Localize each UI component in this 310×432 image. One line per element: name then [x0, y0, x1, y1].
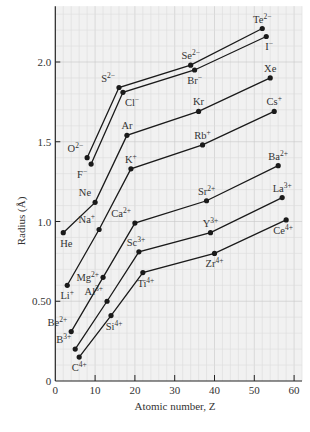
- y-axis-label: Radius (Å): [15, 196, 28, 245]
- point-label: Ar: [121, 120, 133, 131]
- data-point: [77, 354, 82, 359]
- point-label: He: [60, 238, 73, 249]
- x-tick-label: 10: [90, 384, 102, 396]
- data-point: [192, 67, 197, 72]
- x-tick-label: 20: [129, 384, 141, 396]
- y-tick-label: 0: [46, 375, 52, 387]
- point-label: Xe: [264, 63, 277, 74]
- x-axis-label: Atomic number, Z: [134, 400, 215, 412]
- x-tick-label: 60: [289, 384, 301, 396]
- data-point: [268, 75, 273, 80]
- data-point: [124, 133, 129, 138]
- data-point: [132, 220, 137, 225]
- data-point: [65, 283, 70, 288]
- y-tick-label: 1.5: [38, 136, 52, 148]
- data-point: [116, 85, 121, 90]
- data-point: [100, 275, 105, 280]
- data-point: [89, 161, 94, 166]
- y-tick-label: 0.50: [32, 295, 52, 307]
- data-point: [120, 90, 125, 95]
- x-tick-label: 0: [53, 384, 59, 396]
- data-point: [276, 163, 281, 168]
- data-point: [196, 109, 201, 114]
- data-point: [96, 227, 101, 232]
- data-point: [85, 155, 90, 160]
- data-point: [212, 251, 217, 256]
- data-point: [200, 142, 205, 147]
- data-point: [284, 217, 289, 222]
- x-tick-label: 40: [209, 384, 221, 396]
- chart-svg: 010203040506000.501.01.52.0 O2−S2−Se2−Te…: [0, 0, 310, 432]
- data-point: [264, 34, 269, 39]
- y-tick-label: 2.0: [38, 56, 52, 68]
- data-point: [73, 347, 78, 352]
- data-point: [104, 299, 109, 304]
- data-point: [108, 313, 113, 318]
- data-point: [140, 270, 145, 275]
- data-point: [260, 26, 265, 31]
- data-point: [204, 198, 209, 203]
- x-tick-label: 30: [169, 384, 181, 396]
- x-tick-label: 50: [249, 384, 261, 396]
- point-label: Kr: [193, 96, 205, 107]
- point-label: Ne: [79, 187, 92, 198]
- data-point: [208, 230, 213, 235]
- data-point: [272, 109, 277, 114]
- data-point: [136, 249, 141, 254]
- ionic-radius-chart: 010203040506000.501.01.52.0 O2−S2−Se2−Te…: [0, 0, 310, 432]
- y-tick-label: 1.0: [38, 216, 52, 228]
- data-point: [61, 230, 66, 235]
- data-point: [128, 166, 133, 171]
- data-point: [280, 195, 285, 200]
- data-point: [188, 63, 193, 68]
- data-point: [93, 200, 98, 205]
